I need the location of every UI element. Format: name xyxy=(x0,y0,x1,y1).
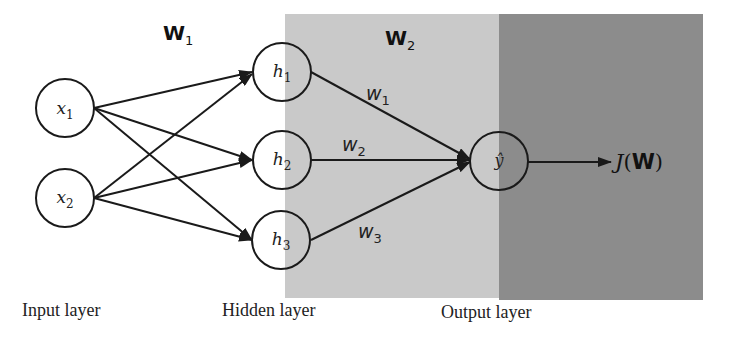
input-node-x1: x1 xyxy=(36,79,94,137)
weight-matrix-w1-label: W1 xyxy=(163,21,193,48)
output-layer-label: Output layer xyxy=(441,302,531,322)
input-layer-label: Input layer xyxy=(22,300,100,320)
output-cost-shaded-region xyxy=(499,14,703,300)
cost-function-label: J(W) xyxy=(611,150,663,174)
hidden-layer-label: Hidden layer xyxy=(222,300,315,320)
hidden-node-h1: h1 xyxy=(253,43,311,101)
input-hidden-edges xyxy=(94,72,252,240)
svg-text:ŷ: ŷ xyxy=(493,151,504,170)
hidden-node-h3: h3 xyxy=(252,211,310,269)
hidden-output-shaded-region xyxy=(285,14,501,298)
input-node-x2: x2 xyxy=(36,169,94,227)
output-node-yhat: ŷ xyxy=(470,132,528,190)
neural-network-diagram: x1 x2 h1 h2 xyxy=(0,0,734,342)
edge-x1-h2 xyxy=(94,108,252,160)
diagram-canvas: x1 x2 h1 h2 xyxy=(0,0,734,342)
edge-x1-h3 xyxy=(94,108,252,240)
hidden-node-h2: h2 xyxy=(253,131,311,189)
edge-x1-h1 xyxy=(94,72,252,108)
